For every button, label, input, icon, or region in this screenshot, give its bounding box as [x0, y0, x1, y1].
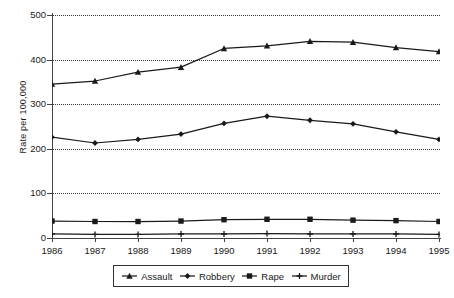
- series-line: [52, 116, 439, 143]
- data-series-layer: [52, 15, 440, 238]
- data-point: [221, 120, 227, 126]
- x-axis-tick: [52, 238, 53, 242]
- x-axis-tick-label: 1992: [299, 245, 320, 256]
- legend-label: Assault: [141, 271, 172, 282]
- x-axis-tick-label: 1988: [127, 245, 148, 256]
- x-axis-tick-label: 1989: [170, 245, 191, 256]
- x-axis-line: [51, 238, 441, 239]
- data-point: [307, 217, 312, 222]
- x-axis-tick: [396, 238, 397, 242]
- x-axis-tick: [439, 238, 440, 242]
- x-axis-tick: [181, 238, 182, 242]
- y-axis-tick-label: 400: [0, 55, 46, 65]
- legend-item-robbery[interactable]: Robbery: [179, 271, 235, 282]
- data-point: [307, 231, 313, 237]
- data-point: [92, 231, 98, 237]
- legend-item-assault[interactable]: Assault: [121, 271, 172, 282]
- y-axis-tick-label: 300: [0, 99, 46, 109]
- data-point: [436, 137, 440, 143]
- data-point: [221, 217, 226, 222]
- x-axis-tick: [224, 238, 225, 242]
- y-axis-tick-label: 0: [0, 233, 46, 243]
- legend-plus-icon: [291, 271, 308, 281]
- data-point: [135, 219, 140, 224]
- legend-label: Robbery: [199, 271, 235, 282]
- x-axis-tick-label: 1994: [385, 245, 406, 256]
- plot-area: [52, 15, 440, 238]
- series-line: [52, 41, 439, 84]
- x-axis-tick-label: 1987: [84, 245, 105, 256]
- x-axis-tick: [267, 238, 268, 242]
- data-point: [350, 217, 355, 222]
- data-point: [393, 129, 399, 135]
- legend-square-icon: [241, 271, 258, 281]
- data-point: [52, 218, 55, 223]
- series-line: [52, 234, 439, 235]
- y-axis-title: Rate per 100,000: [18, 52, 28, 182]
- series-murder: [52, 231, 440, 238]
- data-point: [264, 113, 270, 119]
- x-axis-tick-label: 1991: [256, 245, 277, 256]
- data-point: [178, 231, 184, 237]
- data-point: [350, 231, 356, 237]
- data-point: [264, 231, 270, 237]
- series-line: [52, 219, 439, 221]
- data-point: [393, 231, 399, 237]
- series-assault: [52, 38, 440, 87]
- x-axis-tick: [95, 238, 96, 242]
- legend-label: Murder: [311, 271, 341, 282]
- data-point: [92, 140, 98, 146]
- x-axis-tick: [310, 238, 311, 242]
- x-axis-tick: [138, 238, 139, 242]
- x-axis-tick-label: 1990: [213, 245, 234, 256]
- data-point: [92, 219, 97, 224]
- chart-legend: AssaultRobberyRapeMurder: [113, 265, 349, 287]
- y-axis-tick-label: 200: [0, 144, 46, 154]
- data-point: [393, 218, 398, 223]
- legend-triangle-icon: [121, 271, 138, 281]
- data-point: [178, 218, 183, 223]
- x-axis-tick-label: 1993: [342, 245, 363, 256]
- legend-label: Rape: [261, 271, 284, 282]
- data-point: [264, 217, 269, 222]
- legend-item-murder[interactable]: Murder: [291, 271, 341, 282]
- chart-figure: Rate per 100,000 0100200300400500 198619…: [0, 0, 454, 298]
- y-axis-tick-label: 100: [0, 188, 46, 198]
- data-point: [350, 121, 356, 127]
- data-point: [135, 137, 141, 143]
- data-point: [221, 231, 227, 237]
- y-axis-tick-label: 500: [0, 10, 46, 20]
- x-axis-tick-label: 1986: [41, 245, 62, 256]
- data-point: [52, 134, 55, 140]
- legend-item-rape[interactable]: Rape: [241, 271, 284, 282]
- series-robbery: [52, 113, 440, 146]
- series-rape: [52, 217, 440, 225]
- data-point: [52, 231, 55, 237]
- x-axis-tick-label: 1995: [428, 245, 449, 256]
- data-point: [436, 231, 440, 237]
- x-axis-tick: [353, 238, 354, 242]
- data-point: [307, 117, 313, 123]
- data-point: [436, 219, 440, 224]
- legend-diamond-icon: [179, 271, 196, 281]
- data-point: [135, 231, 141, 237]
- data-point: [178, 131, 184, 137]
